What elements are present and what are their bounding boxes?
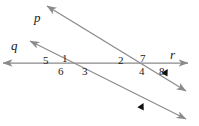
- line-label-q: q: [11, 39, 18, 52]
- angle-label-7: 7: [140, 53, 146, 64]
- line-label-p: p: [34, 11, 41, 24]
- angle-label-6: 6: [58, 66, 64, 77]
- tick-on-q: [137, 101, 146, 110]
- angle-label-3: 3: [82, 66, 88, 77]
- line-label-r: r: [170, 48, 175, 61]
- geometry-figure: p q r 5 1 6 3 2 7 4 8: [0, 0, 199, 126]
- angle-label-1: 1: [62, 53, 68, 64]
- line-q: [30, 41, 186, 119]
- angle-label-8: 8: [159, 66, 165, 77]
- line-p: [47, 6, 186, 91]
- figure-canvas: [0, 0, 199, 126]
- angle-label-2: 2: [118, 55, 124, 66]
- angle-label-5: 5: [43, 55, 49, 66]
- angle-label-4: 4: [139, 66, 145, 77]
